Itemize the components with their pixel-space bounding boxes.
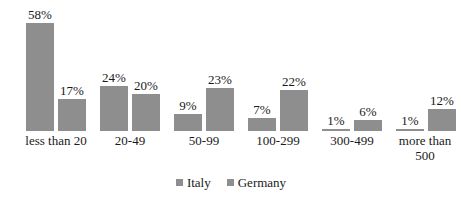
bar-group: 58% 17% bbox=[20, 0, 92, 131]
bar-rect-italy[interactable] bbox=[100, 86, 128, 131]
bar-value-label: 23% bbox=[208, 73, 232, 86]
legend-item-germany[interactable]: Germany bbox=[227, 176, 286, 189]
category-label-100-299: 100-299 bbox=[242, 133, 314, 148]
category-label-50-99: 50-99 bbox=[168, 133, 240, 148]
bar-value-label: 58% bbox=[28, 8, 52, 21]
bar-group: 1% 12% bbox=[390, 0, 462, 131]
bar-group: 24% 20% bbox=[94, 0, 166, 131]
category-label-less-than-20: less than 20 bbox=[20, 133, 92, 148]
bar-rect-germany[interactable] bbox=[58, 99, 86, 131]
legend-swatch-icon bbox=[227, 179, 234, 186]
bar-value-label: 1% bbox=[327, 114, 344, 127]
bar-chart: 58% 17% 24% 20% 9% bbox=[0, 0, 462, 201]
legend: Italy Germany bbox=[0, 176, 462, 189]
bar-rect-germany[interactable] bbox=[206, 88, 234, 131]
bar-group: 7% 22% bbox=[242, 0, 314, 131]
bar-rect-italy[interactable] bbox=[26, 23, 54, 131]
bar-value-label: 1% bbox=[401, 114, 418, 127]
category-label-20-49: 20-49 bbox=[94, 133, 166, 148]
bar-rect-germany[interactable] bbox=[428, 109, 456, 131]
bar-value-label: 20% bbox=[134, 79, 158, 92]
bar-value-label: 22% bbox=[282, 75, 306, 88]
bar-rect-italy[interactable] bbox=[174, 114, 202, 131]
category-label-300-499: 300-499 bbox=[316, 133, 388, 148]
bar-rect-germany[interactable] bbox=[132, 94, 160, 131]
bar-group: 1% 6% bbox=[316, 0, 388, 131]
legend-item-italy[interactable]: Italy bbox=[176, 176, 211, 189]
legend-label-germany: Germany bbox=[238, 176, 286, 189]
bar-rect-italy[interactable] bbox=[322, 129, 350, 131]
bar-value-label: 9% bbox=[179, 99, 196, 112]
legend-label-italy: Italy bbox=[187, 176, 211, 189]
bar-group: 9% 23% bbox=[168, 0, 240, 131]
bar-value-label: 17% bbox=[60, 84, 84, 97]
category-label-more-than-500: more than 500 bbox=[388, 133, 462, 163]
legend-swatch-icon bbox=[176, 179, 183, 186]
bar-rect-italy[interactable] bbox=[248, 118, 276, 131]
bar-value-label: 24% bbox=[102, 71, 126, 84]
bar-value-label: 7% bbox=[253, 103, 270, 116]
category-axis: less than 20 20-49 50-99 100-299 300-499… bbox=[0, 133, 462, 171]
bar-value-label: 12% bbox=[430, 94, 454, 107]
bar-rect-germany[interactable] bbox=[354, 120, 382, 131]
bar-rect-italy[interactable] bbox=[396, 129, 424, 131]
plot-area: 58% 17% 24% 20% 9% bbox=[0, 0, 462, 131]
bar-value-label: 6% bbox=[359, 105, 376, 118]
bar-rect-germany[interactable] bbox=[280, 90, 308, 131]
